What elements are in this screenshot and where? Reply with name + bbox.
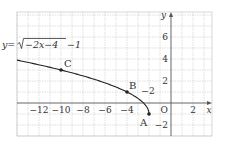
x-tick-label: −10 bbox=[52, 105, 71, 115]
equation-radicand: −2x−4 bbox=[25, 39, 58, 50]
point-c-label: C bbox=[64, 58, 72, 69]
y-axis-label: y bbox=[160, 10, 167, 20]
function-graph: ABC −12−10−8−6−4−22642−2Oxy y= −2x−4 −1 bbox=[0, 0, 227, 145]
x-tick-label: −8 bbox=[76, 105, 90, 115]
point-a-marker bbox=[147, 112, 151, 116]
grid-lines bbox=[17, 12, 212, 136]
x-tick-label: 2 bbox=[190, 105, 196, 115]
y-tick-label: 6 bbox=[162, 32, 168, 42]
x-tick-label: −2 bbox=[141, 86, 154, 96]
grid-border bbox=[17, 12, 212, 136]
y-axis-arrow-icon bbox=[169, 12, 173, 17]
equation-lhs: y= bbox=[1, 39, 15, 50]
point-b-label: B bbox=[129, 80, 136, 91]
equation-tail: −1 bbox=[67, 39, 81, 50]
y-tick-label: −2 bbox=[155, 120, 168, 130]
x-axis-label: x bbox=[206, 105, 211, 115]
point-c-marker bbox=[59, 68, 63, 72]
x-tick-label: −12 bbox=[30, 105, 49, 115]
plot-area: ABC −12−10−8−6−4−22642−2Oxy y= −2x−4 −1 bbox=[0, 0, 227, 145]
axes bbox=[17, 12, 212, 136]
y-tick-label: 2 bbox=[162, 76, 168, 86]
x-tick-label: −6 bbox=[98, 105, 112, 115]
equation-label: y= −2x−4 −1 bbox=[1, 39, 81, 51]
point-a-label: A bbox=[139, 117, 148, 128]
y-tick-label: 4 bbox=[162, 54, 168, 64]
x-tick-label: −4 bbox=[120, 105, 134, 115]
origin-label: O bbox=[161, 105, 168, 115]
